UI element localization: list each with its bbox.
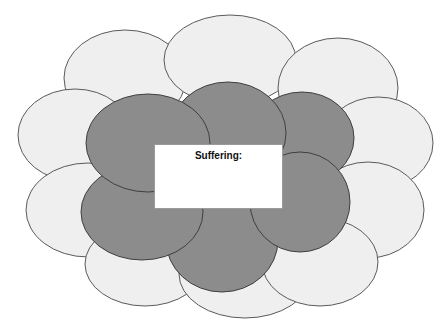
suffering-title: Suffering: — [155, 150, 282, 161]
suffering-text-box[interactable]: Suffering: — [154, 144, 283, 209]
